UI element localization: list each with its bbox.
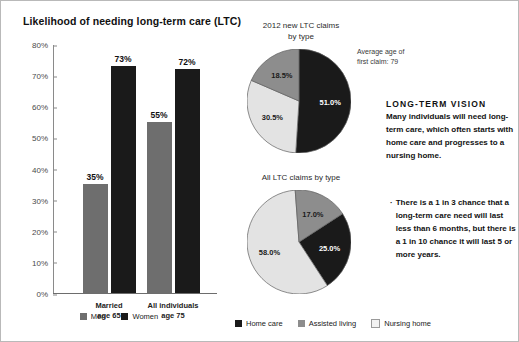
bar-chart-panel: Likelihood of needing long-term care (LT… bbox=[1, 1, 237, 342]
bar-fill bbox=[147, 122, 172, 293]
legend-label: Women bbox=[132, 312, 158, 321]
pie-chart-1-title: 2012 new LTC claims by type bbox=[241, 21, 361, 43]
y-axis-tick-mark bbox=[53, 170, 57, 171]
y-axis-tick-mark bbox=[53, 45, 57, 46]
y-axis-tick-label: 0% bbox=[36, 290, 48, 299]
long-term-vision-block: LONG-TERM VISION Many individuals will n… bbox=[386, 99, 514, 163]
pie-chart-2-title-line1: All LTC claims by type bbox=[241, 173, 361, 184]
bar-chart-plot-area: 80%70%60%50%40%30%20%10%0% 35%73%55%72% … bbox=[53, 45, 211, 294]
pie-slice-label: 30.5% bbox=[262, 112, 283, 121]
legend-swatch bbox=[298, 320, 305, 327]
pie-slice-label: 25.0% bbox=[319, 244, 340, 253]
pie-chart-1-graphic: 51.0%30.5%18.5% bbox=[247, 49, 351, 153]
annotation-line-1: Average age of bbox=[357, 47, 404, 57]
pie-chart-legend: Home careAssisted livingNursing home bbox=[235, 319, 431, 328]
y-axis-tick-mark bbox=[53, 201, 57, 202]
average-age-annotation: Average age of first claim: 79 bbox=[357, 47, 404, 67]
pie-legend-item: Assisted living bbox=[298, 319, 357, 328]
bullet-point-block: · There is a 1 in 3 chance that a long-t… bbox=[390, 197, 516, 262]
bar-women-group-0: 73% bbox=[111, 66, 136, 293]
y-axis-tick-mark bbox=[53, 263, 57, 264]
bar-fill bbox=[83, 184, 108, 293]
bar-value-label: 72% bbox=[178, 57, 195, 67]
pie-slice-label: 18.5% bbox=[271, 70, 292, 79]
pie-chart-1-title-line1: 2012 new LTC claims bbox=[241, 21, 361, 32]
legend-swatch bbox=[80, 313, 87, 320]
bar-men-group-0: 35% bbox=[83, 184, 108, 293]
pie-slice-label: 51.0% bbox=[320, 97, 341, 106]
y-axis-tick-mark bbox=[53, 232, 57, 233]
vision-body-text: Many individuals will need long-term car… bbox=[386, 111, 514, 163]
legend-label: Nursing home bbox=[384, 319, 431, 328]
legend-swatch bbox=[235, 320, 242, 327]
bar-value-label: 73% bbox=[114, 54, 131, 64]
legend-label: Assisted living bbox=[309, 319, 357, 328]
y-axis-tick-label: 80% bbox=[32, 41, 48, 50]
bar-legend-item: Men bbox=[80, 312, 106, 321]
x-axis-line bbox=[53, 293, 217, 294]
page-title: Likelihood of needing long-term care (LT… bbox=[23, 15, 241, 27]
pie-chart-2-panel: All LTC claims by type 25.0%58.0%17.0% bbox=[241, 173, 401, 294]
y-axis-tick-mark bbox=[53, 107, 57, 108]
annotation-line-2: first claim: 79 bbox=[357, 57, 404, 67]
bar-men-group-1: 55% bbox=[147, 122, 172, 293]
y-axis-tick-label: 70% bbox=[32, 72, 48, 81]
pie-chart-1-panel: 2012 new LTC claims by type 51.0%30.5%18… bbox=[241, 21, 401, 153]
bullet-text: There is a 1 in 3 chance that a long-ter… bbox=[396, 197, 516, 262]
pie-legend-item: Home care bbox=[235, 319, 283, 328]
infographic-page: Likelihood of needing long-term care (LT… bbox=[0, 0, 519, 342]
y-axis-tick-label: 50% bbox=[32, 134, 48, 143]
pie-chart-1-title-line2: by type bbox=[241, 32, 361, 43]
bullet-marker: · bbox=[390, 197, 393, 262]
y-axis-tick-label: 20% bbox=[32, 227, 48, 236]
bar-chart-legend: MenWomen bbox=[1, 312, 237, 321]
y-axis-tick-label: 30% bbox=[32, 196, 48, 205]
pie-chart-2-title: All LTC claims by type bbox=[241, 173, 361, 184]
bar-value-label: 55% bbox=[150, 110, 167, 120]
bar-women-group-1: 72% bbox=[175, 69, 200, 293]
bar-fill bbox=[175, 69, 200, 293]
legend-swatch bbox=[371, 319, 380, 328]
vision-heading: LONG-TERM VISION bbox=[386, 99, 514, 109]
bar-legend-item: Women bbox=[121, 312, 158, 321]
y-axis-tick-label: 40% bbox=[32, 165, 48, 174]
bar-value-label: 35% bbox=[86, 172, 103, 182]
y-axis-tick-label: 60% bbox=[32, 103, 48, 112]
legend-label: Men bbox=[91, 312, 106, 321]
y-axis-tick-label: 10% bbox=[32, 258, 48, 267]
pie-slice-label: 58.0% bbox=[259, 247, 280, 256]
pie-svg bbox=[247, 190, 351, 294]
y-axis-tick-mark bbox=[53, 138, 57, 139]
pie-legend-item: Nursing home bbox=[371, 319, 431, 328]
legend-label: Home care bbox=[246, 319, 283, 328]
legend-swatch bbox=[121, 313, 128, 320]
y-axis-tick-mark bbox=[53, 76, 57, 77]
pie-chart-2-graphic: 25.0%58.0%17.0% bbox=[247, 190, 351, 294]
y-axis-tick-mark bbox=[53, 294, 57, 295]
bar-fill bbox=[111, 66, 136, 293]
pie-slice-label: 17.0% bbox=[302, 209, 323, 218]
